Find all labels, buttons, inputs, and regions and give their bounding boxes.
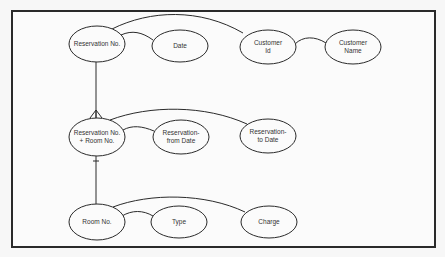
node-label: from Date bbox=[167, 137, 196, 144]
entity-node-charge[interactable]: Charge bbox=[241, 206, 297, 238]
node-label: Reservation- bbox=[250, 128, 287, 135]
node-label: Reservation No. bbox=[74, 129, 121, 136]
node-label: Id bbox=[265, 47, 271, 54]
node-label: Customer bbox=[339, 39, 368, 46]
edge-reservation_room-reservation_from bbox=[123, 127, 154, 131]
diagram-svg: Reservation No.DateCustomerIdCustomerNam… bbox=[0, 0, 445, 257]
node-label: + Room No. bbox=[80, 137, 115, 144]
er-diagram-canvas: Reservation No.DateCustomerIdCustomerNam… bbox=[0, 0, 445, 257]
node-label: Room No. bbox=[82, 218, 111, 225]
node-label: to Date bbox=[258, 136, 279, 143]
entity-node-reservation-room[interactable]: Reservation No.+ Room No. bbox=[69, 118, 125, 156]
node-label: Reservation No. bbox=[74, 40, 121, 47]
node-label: Reservation- bbox=[163, 129, 200, 136]
node-label: Name bbox=[344, 47, 362, 54]
entity-node-reservation-no[interactable]: Reservation No. bbox=[69, 26, 125, 62]
entity-node-customer-id[interactable]: CustomerId bbox=[240, 30, 296, 64]
entity-node-date[interactable]: Date bbox=[152, 30, 208, 62]
edge-customer_id-customer_name bbox=[295, 38, 326, 44]
entity-node-type[interactable]: Type bbox=[151, 206, 207, 238]
edge-room_no-type bbox=[122, 212, 153, 217]
node-label: Customer bbox=[254, 39, 283, 46]
nodes-layer: Reservation No.DateCustomerIdCustomerNam… bbox=[69, 26, 381, 240]
crow-foot-icon bbox=[90, 110, 102, 118]
entity-node-customer-name[interactable]: CustomerName bbox=[325, 30, 381, 64]
entity-node-reservation-from[interactable]: Reservation-from Date bbox=[153, 120, 209, 154]
edge-reservation_no-date bbox=[121, 32, 153, 40]
entity-node-reservation-to[interactable]: Reservation-to Date bbox=[240, 119, 296, 153]
node-label: Charge bbox=[258, 218, 280, 226]
node-label: Date bbox=[173, 42, 187, 49]
entity-node-room-no[interactable]: Room No. bbox=[69, 204, 125, 240]
node-label: Type bbox=[172, 218, 186, 226]
